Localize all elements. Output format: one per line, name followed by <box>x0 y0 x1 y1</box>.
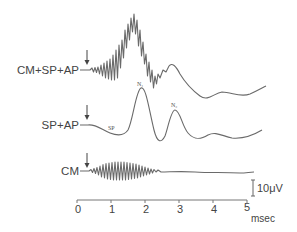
x-tick-2: 2 <box>143 203 149 215</box>
trace-sp-ap: SP+AP SP N₁ N₂ <box>42 81 262 141</box>
stimulus-arrow-icon <box>85 105 90 120</box>
trace-label-sp-ap: SP+AP <box>42 119 80 131</box>
stimulus-arrow-icon <box>85 153 90 168</box>
trace-label-cm: CM <box>61 165 79 177</box>
evoked-potential-diagram: CM+SP+AP SP+AP SP N₁ N₂ CM 10μV <box>0 0 297 232</box>
x-tick-4: 4 <box>211 203 217 215</box>
trace-cm: CM <box>61 153 254 180</box>
annotation-n1: N₁ <box>137 81 143 87</box>
x-tick-1: 1 <box>109 203 115 215</box>
scale-bar: 10μV <box>251 180 284 196</box>
annotation-sp: SP <box>108 125 115 131</box>
x-tick-5: 5 <box>244 201 250 213</box>
stimulus-arrow-icon <box>85 50 90 65</box>
annotation-n2: N₂ <box>171 102 177 108</box>
x-axis: 0 1 2 3 4 5 msec <box>75 200 275 224</box>
trace-label-cm-sp-ap: CM+SP+AP <box>17 64 79 76</box>
scale-bar-label: 10μV <box>257 182 284 194</box>
x-axis-unit: msec <box>251 213 275 224</box>
x-tick-3: 3 <box>177 203 183 215</box>
x-tick-0: 0 <box>75 203 81 215</box>
